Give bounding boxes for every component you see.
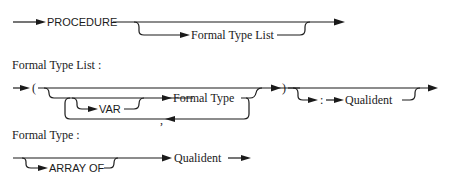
qualident-ref: Qualident: [345, 93, 393, 107]
colon: :: [320, 93, 323, 107]
formal-type-heading: Formal Type :: [12, 128, 80, 142]
procedure-diagram: PROCEDURE Formal Type List: [13, 16, 345, 42]
var-keyword: VAR: [99, 103, 121, 115]
array-of-keyword: ARRAY OF: [49, 162, 104, 174]
arrow-right-icon: [36, 19, 46, 25]
formal-type-list-heading: Formal Type List :: [12, 58, 101, 72]
arrow-right-icon: [334, 97, 344, 103]
arrow-right-icon: [271, 85, 281, 92]
formal-type-list-diagram: ( VAR Formal Type , ) : Qualident: [13, 81, 438, 127]
formal-type-diagram: ARRAY OF Qualident: [13, 151, 251, 174]
arrow-left-icon: [165, 116, 175, 122]
qualident-ref: Qualident: [174, 151, 222, 165]
arrow-right-icon: [38, 165, 48, 171]
arrow-right-icon: [428, 85, 438, 92]
arrow-right-icon: [180, 32, 190, 38]
arrow-right-icon: [308, 97, 318, 103]
arrow-right-icon: [162, 155, 172, 162]
arrow-right-icon: [241, 155, 251, 161]
arrow-right-icon: [20, 85, 30, 91]
close-paren: ): [282, 81, 286, 95]
formal-type-ref: Formal Type: [173, 91, 234, 105]
comma-separator: ,: [160, 113, 163, 127]
open-paren: (: [32, 81, 36, 95]
arrow-right-icon: [88, 106, 98, 112]
procedure-keyword: PROCEDURE: [47, 16, 117, 28]
formal-type-list-ref: Formal Type List: [191, 28, 275, 42]
syntax-diagram-canvas: PROCEDURE Formal Type List Formal Type L…: [0, 0, 450, 184]
arrow-right-icon: [334, 19, 345, 26]
arrow-right-icon: [162, 95, 172, 101]
